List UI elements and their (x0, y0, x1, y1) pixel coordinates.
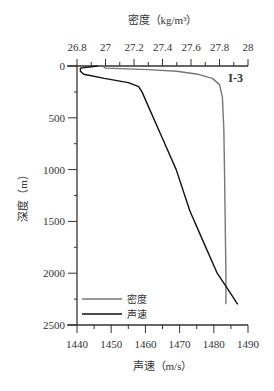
y-tick-label: 2000 (43, 267, 66, 279)
top-tick-label: 27.8 (210, 41, 230, 53)
y-tick-label: 1000 (43, 164, 66, 176)
bottom-tick-label: 1450 (100, 338, 123, 350)
y-tick-label: 1500 (43, 215, 66, 227)
top-tick-label: 27 (100, 41, 112, 53)
depth-profile-chart: 26.82727.227.427.627.828密度（kg/m³）1440145… (0, 0, 274, 391)
series-sound-speed-line (80, 66, 237, 304)
panel-label: I-3 (228, 71, 243, 85)
top-tick-label: 27.6 (181, 41, 201, 53)
legend-label: 密度 (127, 293, 147, 305)
bottom-tick-label: 1480 (203, 338, 226, 350)
top-tick-label: 27.2 (124, 41, 143, 53)
top-tick-label: 26.8 (67, 41, 87, 53)
y-axis-title: 深度（m） (16, 169, 29, 222)
y-tick-label: 500 (49, 112, 66, 124)
bottom-tick-label: 1440 (66, 338, 89, 350)
bottom-tick-label: 1470 (169, 338, 192, 350)
y-tick-label: 0 (60, 60, 66, 72)
top-axis-title: 密度（kg/m³） (128, 13, 198, 26)
series-density-line (103, 66, 226, 304)
top-tick-label: 28 (243, 41, 255, 53)
legend-label: 声速 (127, 308, 147, 320)
y-tick-label: 2500 (43, 319, 66, 331)
bottom-axis-title: 声速（m/s） (133, 359, 193, 372)
bottom-tick-label: 1460 (134, 338, 157, 350)
top-tick-label: 27.4 (153, 41, 173, 53)
bottom-tick-label: 1490 (237, 338, 260, 350)
